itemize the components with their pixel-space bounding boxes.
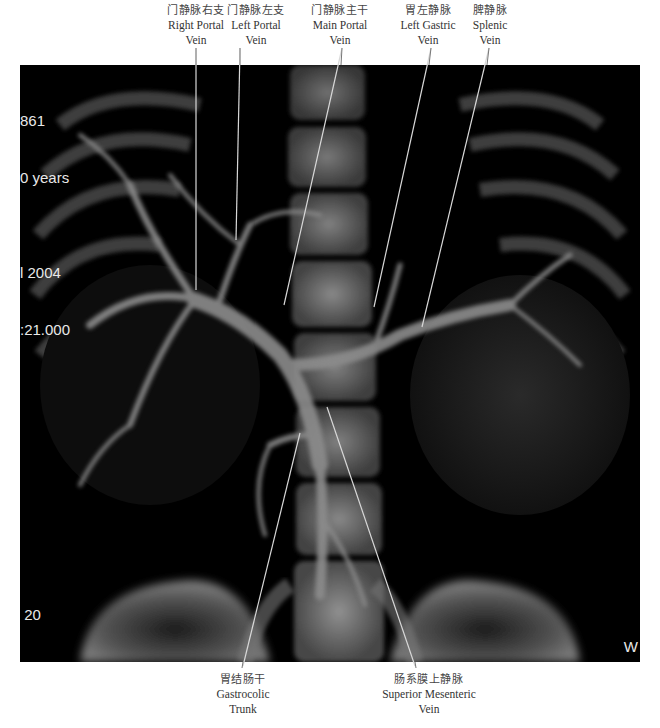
- label-en: Superior Mesenteric: [382, 687, 476, 702]
- label-zh: 门静脉右支: [167, 4, 225, 17]
- label-zh: 门静脉主干: [311, 4, 369, 17]
- label-en: Vein: [227, 33, 285, 48]
- label-en: Right Portal: [167, 18, 225, 33]
- overlay-line: 20: [20, 605, 49, 624]
- label-main-portal-vein: 门静脉主干 Main Portal Vein: [311, 3, 369, 48]
- label-en: Vein: [311, 33, 369, 48]
- label-en: Trunk: [216, 702, 269, 717]
- annotated-ct-figure: 861 0 years l 2004 :21.000 20 20 :500 21…: [0, 0, 660, 728]
- dicom-overlay-bottom-right: W: [624, 637, 638, 656]
- label-en: Left Gastric: [400, 18, 455, 33]
- label-superior-mesenteric-vein: 肠系膜上静脉 Superior Mesenteric Vein: [382, 672, 476, 717]
- overlay-line: :21.000: [20, 320, 70, 339]
- label-en: Vein: [382, 702, 476, 717]
- label-gastrocolic-trunk: 胃结肠干 Gastrocolic Trunk: [216, 672, 269, 717]
- label-splenic-vein: 脾静脉 Splenic Vein: [473, 3, 508, 48]
- overlay-line: 0 years: [20, 168, 70, 187]
- label-en: Vein: [167, 33, 225, 48]
- label-en: Gastrocolic: [216, 687, 269, 702]
- dicom-overlay-bottom-left: 20 20 :500 210 mm on: [20, 567, 49, 662]
- ct-scan-image: 861 0 years l 2004 :21.000 20 20 :500 21…: [20, 65, 640, 662]
- label-left-gastric-vein: 胃左静脉 Left Gastric Vein: [400, 3, 455, 48]
- label-right-portal-vein: 门静脉右支 Right Portal Vein: [167, 3, 225, 48]
- label-en: Left Portal: [227, 18, 285, 33]
- overlay-line: l 2004: [20, 263, 70, 282]
- label-en: Vein: [473, 33, 508, 48]
- label-en: Splenic: [473, 18, 508, 33]
- label-zh: 胃左静脉: [405, 4, 451, 17]
- overlay-line: 861: [20, 111, 70, 130]
- label-en: Main Portal: [311, 18, 369, 33]
- label-zh: 肠系膜上静脉: [394, 673, 463, 686]
- label-zh: 门静脉左支: [227, 4, 285, 17]
- dicom-overlay-top-left: 861 0 years l 2004 :21.000: [20, 73, 70, 377]
- anatomy-rendering: [20, 65, 640, 662]
- label-en: Vein: [400, 33, 455, 48]
- label-zh: 脾静脉: [473, 4, 508, 17]
- label-zh: 胃结肠干: [220, 673, 266, 686]
- label-left-portal-vein: 门静脉左支 Left Portal Vein: [227, 3, 285, 48]
